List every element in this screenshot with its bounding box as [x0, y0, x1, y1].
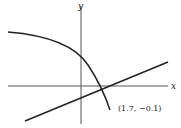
- x-axis-label: x: [171, 81, 176, 91]
- intersection-label: (1.7, −0.1): [118, 104, 161, 113]
- graph-diagram: y x (1.7, −0.1): [0, 0, 181, 128]
- y-axis-label: y: [77, 1, 84, 11]
- curve: [8, 32, 110, 110]
